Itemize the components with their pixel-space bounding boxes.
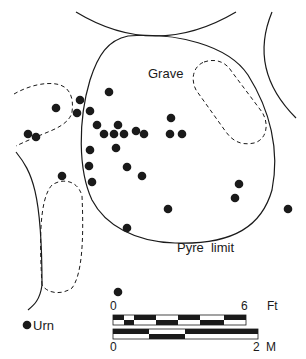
urn-dot	[120, 130, 129, 139]
site-plan	[0, 0, 306, 359]
urn-dot	[138, 172, 147, 181]
scale-bar-feet	[113, 315, 246, 325]
urn-dot	[58, 172, 67, 181]
urn-dot	[235, 180, 244, 189]
urn-dot	[123, 163, 132, 172]
urn-dot	[123, 224, 132, 233]
urn-dot	[164, 205, 173, 214]
urn-dot	[52, 104, 61, 113]
urn-dot	[166, 130, 175, 139]
urn-dot	[110, 130, 119, 139]
feature-outline-dashed-left	[14, 83, 72, 146]
scale-bar-metres	[113, 329, 258, 339]
scale-metres-unit: M	[266, 341, 276, 353]
urn-dot	[178, 130, 187, 139]
urn-dot	[105, 88, 114, 97]
feature-outline-right-arc	[264, 12, 296, 118]
urn-dot	[114, 288, 123, 297]
grave-outline-dashed	[193, 60, 266, 143]
scale-metres-end: 2	[253, 341, 260, 353]
pyre-limit-label: Pyre limit	[177, 241, 234, 254]
grave-label: Grave	[148, 67, 183, 80]
feature-outline-lower-left	[16, 152, 42, 310]
urn-dot	[140, 130, 149, 139]
scale-feet-end: 6	[241, 300, 248, 312]
urn-dot	[284, 205, 293, 214]
urn-dot	[86, 146, 95, 155]
feature-outline-dashed-lower	[41, 181, 83, 292]
feature-outline-top-arc	[76, 12, 236, 36]
urn-dot	[167, 114, 176, 123]
urn-markers	[24, 88, 293, 297]
urn-dot	[93, 121, 102, 130]
urn-dot	[231, 194, 240, 203]
urn-dot	[100, 130, 109, 139]
scale-feet-start: 0	[110, 300, 117, 312]
scale-metres-start: 0	[110, 341, 117, 353]
urn-dot	[132, 127, 141, 136]
urn-dot	[73, 109, 82, 118]
legend-urn-dot	[23, 321, 32, 330]
urn-dot	[114, 121, 123, 130]
urn-dot	[24, 130, 33, 139]
scale-feet-unit: Ft	[267, 300, 278, 312]
urn-dot	[85, 162, 94, 171]
urn-dot	[76, 96, 85, 105]
urn-dot	[86, 107, 95, 116]
urn-dot	[32, 133, 41, 142]
urn-dot	[88, 178, 97, 187]
legend-urn-label: Urn	[33, 319, 54, 332]
urn-dot	[112, 144, 121, 153]
